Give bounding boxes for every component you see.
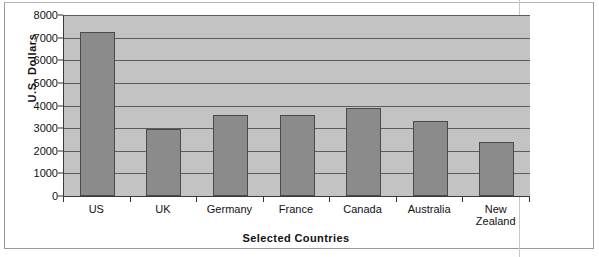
x-category-label: NewZealand [462, 203, 529, 227]
y-tick-label: 8000 [24, 9, 58, 21]
bar [146, 129, 181, 196]
x-axis-title: Selected Countries [63, 232, 529, 244]
y-tick-label: 6000 [24, 54, 58, 66]
x-tick-mark [196, 197, 197, 202]
x-category-label: Canada [329, 203, 396, 215]
bar [413, 121, 448, 196]
bar [80, 32, 115, 196]
y-tick-mark [58, 15, 63, 16]
x-tick-mark [462, 197, 463, 202]
gridline [64, 38, 530, 39]
x-tick-mark [263, 197, 264, 202]
y-tick-label: 7000 [24, 32, 58, 44]
x-tick-mark [63, 197, 64, 202]
y-tick-mark [58, 82, 63, 83]
x-tick-mark [329, 197, 330, 202]
y-tick-mark [58, 105, 63, 106]
y-tick-mark [58, 128, 63, 129]
y-tick-mark [58, 37, 63, 38]
bar [479, 142, 514, 196]
y-axis-tick-labels: 010002000300040005000600070008000 [24, 0, 58, 257]
gridline [64, 83, 530, 84]
y-tick-label: 2000 [24, 145, 58, 157]
x-category-label: Germany [196, 203, 263, 215]
y-tick-label: 0 [24, 190, 58, 202]
bar-chart-figure: U.S. Dollars 010002000300040005000600070… [0, 0, 599, 257]
y-tick-mark [58, 173, 63, 174]
y-tick-label: 1000 [24, 167, 58, 179]
gridline [64, 106, 530, 107]
bar [346, 108, 381, 196]
y-tick-mark [58, 60, 63, 61]
gridline [64, 15, 530, 16]
gridline [64, 60, 530, 61]
y-tick-mark [58, 150, 63, 151]
y-tick-label: 4000 [24, 100, 58, 112]
x-category-label: US [63, 203, 130, 215]
bar [213, 115, 248, 196]
y-tick-label: 5000 [24, 77, 58, 89]
x-category-label: UK [130, 203, 197, 215]
x-tick-mark [529, 197, 530, 202]
x-category-label: France [263, 203, 330, 215]
y-tick-mark [58, 196, 63, 197]
plot-area [63, 15, 530, 197]
x-tick-mark [130, 197, 131, 202]
y-tick-label: 3000 [24, 122, 58, 134]
x-category-label: Australia [396, 203, 463, 215]
bar [280, 115, 315, 196]
x-tick-mark [396, 197, 397, 202]
